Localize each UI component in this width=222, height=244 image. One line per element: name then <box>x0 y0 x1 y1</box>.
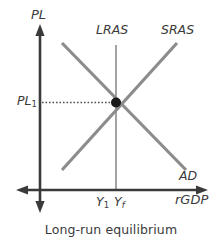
output-base: Y <box>96 194 104 209</box>
output-subscript: 1 <box>104 200 109 210</box>
y-axis-arrow-up <box>35 24 44 36</box>
ad-curve-label: AD <box>179 170 197 183</box>
y-axis-label: PL <box>31 8 46 21</box>
full-employment-subscript: f <box>122 200 125 210</box>
price-level-subscript: 1 <box>32 99 37 109</box>
full-employment-base: Y <box>114 194 122 209</box>
price-level-base: PL <box>17 93 32 108</box>
output-tick-label: Y1 <box>96 196 109 209</box>
lras-curve-label: LRAS <box>96 24 128 37</box>
price-level-tick-label: PL1 <box>17 95 37 108</box>
full-employment-tick-label: Yf <box>114 196 125 209</box>
x-axis-arrow-left <box>16 185 28 194</box>
adas-diagram: PL rGDP LRAS SRAS AD PL1 Y1 Yf Long-run … <box>0 0 222 244</box>
sras-curve-label: SRAS <box>161 24 194 37</box>
curve-group <box>62 43 186 190</box>
y-axis-arrow-down <box>35 201 44 213</box>
equilibrium-point <box>111 98 121 108</box>
axis-group <box>16 24 208 213</box>
x-axis-label: rGDP <box>175 193 208 206</box>
figure-caption: Long-run equilibrium <box>0 222 222 237</box>
